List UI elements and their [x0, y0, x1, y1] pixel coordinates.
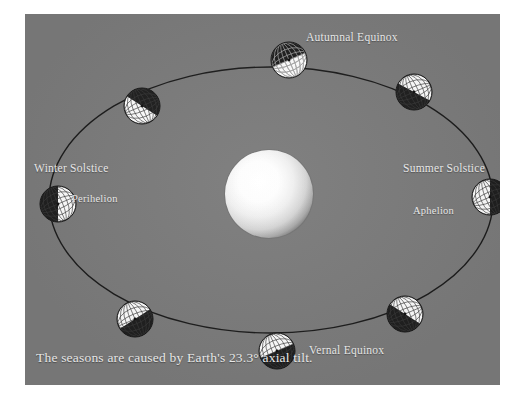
label-autumnal-equinox: Autumnal Equinox — [306, 31, 398, 43]
earth-northeast — [388, 68, 437, 117]
label-aphelion: Aphelion — [413, 205, 454, 216]
earth-northwest — [118, 80, 168, 130]
figure-caption: The seasons are caused by Earth's 23.3° … — [36, 350, 313, 366]
label-summer-solstice: Summer Solstice — [403, 162, 485, 174]
label-vernal-equinox: Vernal Equinox — [309, 344, 384, 356]
sun — [224, 149, 314, 239]
seasons-diagram: Autumnal Equinox Vernal Equinox Winter S… — [0, 0, 524, 401]
earth-winter-solstice — [34, 180, 81, 227]
label-winter-solstice: Winter Solstice — [34, 162, 109, 174]
label-perihelion: Perihelion — [72, 193, 118, 204]
earth-summer-solstice — [466, 173, 500, 220]
illustration-panel: Autumnal Equinox Vernal Equinox Winter S… — [25, 14, 500, 385]
earth-southwest — [111, 295, 161, 345]
